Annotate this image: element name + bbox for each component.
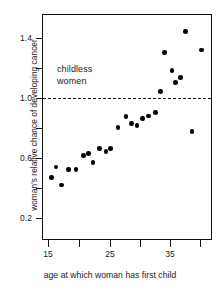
- data-point: [178, 75, 183, 80]
- scatter-chart-figure: childless women 1.4 1.0 0.6 0.2 15 25 35…: [0, 0, 220, 292]
- data-point: [129, 121, 134, 126]
- x-tick-30: [140, 240, 141, 247]
- data-point: [183, 29, 188, 34]
- data-point: [108, 146, 113, 151]
- x-tick-15: [48, 240, 49, 247]
- data-point: [158, 89, 163, 94]
- data-point: [97, 146, 102, 151]
- data-point: [74, 167, 79, 172]
- x-tick-25: [110, 240, 111, 247]
- data-point: [162, 50, 167, 55]
- data-point: [173, 80, 178, 85]
- x-axis-title: age at which woman has first child: [0, 270, 220, 280]
- x-tick-label-25: 25: [98, 249, 122, 259]
- x-tick-35: [170, 240, 171, 247]
- data-point: [140, 116, 145, 121]
- data-point: [49, 175, 54, 180]
- childless-women-annotation: childless women: [57, 64, 92, 87]
- data-point: [116, 125, 121, 130]
- data-point: [170, 68, 175, 73]
- reference-line-1.0: [43, 98, 211, 99]
- x-tick-20: [79, 240, 80, 247]
- data-point: [66, 167, 71, 172]
- x-tick-label-15: 15: [36, 249, 60, 259]
- annotation-line-2: women: [57, 76, 92, 88]
- data-point: [81, 153, 86, 158]
- annotation-line-1: childless: [57, 64, 92, 76]
- data-point: [59, 183, 64, 188]
- plot-frame: [42, 14, 212, 240]
- x-tick-40: [200, 240, 201, 247]
- x-tick-label-35: 35: [158, 249, 182, 259]
- y-axis-title: woman's relative chance of developing ca…: [29, 25, 39, 225]
- data-point: [86, 151, 91, 156]
- data-point: [153, 110, 158, 115]
